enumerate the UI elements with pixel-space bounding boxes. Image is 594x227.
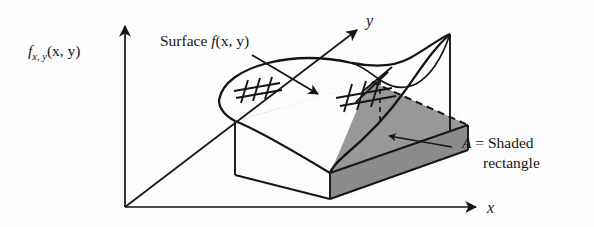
area-label-eq: = Shaded	[471, 134, 533, 151]
hatch-left-cross-2	[253, 78, 260, 101]
vertical-axis-label-arg: (x, y)	[47, 42, 81, 60]
surface-left-skirt	[219, 100, 235, 121]
surface-label-args: (x, y)	[216, 32, 250, 50]
horizontal-axis-label: x	[486, 199, 494, 216]
surface-label-pointer	[252, 55, 318, 94]
surface-hatch-marks-left	[234, 77, 282, 103]
surface-top-right-connector	[450, 34, 468, 125]
area-label-symbol: A	[461, 134, 472, 151]
vertical-axis-label-sub: x, y	[31, 51, 47, 62]
svg-text:A = Shaded: A = Shaded	[461, 134, 534, 151]
area-label-line2: rectangle	[483, 154, 540, 171]
surface-front-ridge	[219, 34, 450, 100]
svg-text:Surface f(x, y): Surface f(x, y)	[160, 32, 249, 50]
surface-label: Surface f(x, y)	[160, 32, 249, 50]
hatch-left-cross-1	[241, 80, 248, 103]
depth-axis-label: y	[364, 12, 374, 30]
area-label: A = Shaded rectangle	[461, 134, 540, 171]
figure-root: fx, y(x, y) y x Surface f(x, y) A = Shad…	[0, 0, 594, 227]
joint-pdf-surface-diagram: fx, y(x, y) y x Surface f(x, y) A = Shad…	[0, 0, 594, 227]
surface-label-word: Surface	[160, 32, 211, 49]
vertical-axis-label: fx, y(x, y)	[28, 42, 80, 62]
svg-text:fx, y(x, y): fx, y(x, y)	[28, 42, 80, 62]
